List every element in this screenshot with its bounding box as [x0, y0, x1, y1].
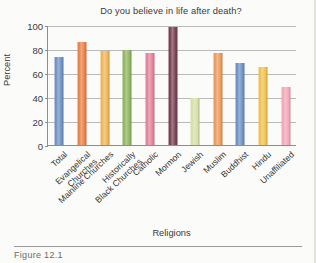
figure-caption: Figure 12.1: [14, 250, 214, 263]
y-tick-mark: [45, 26, 48, 27]
x-axis-title: Religions: [47, 228, 296, 238]
plot-area: 020406080100: [47, 26, 296, 146]
figure-container: Do you believe in life after death? Perc…: [0, 0, 316, 263]
bar: [191, 98, 200, 145]
bar: [168, 27, 177, 145]
y-tick-mark: [45, 50, 48, 51]
bar: [77, 42, 86, 145]
y-tick-mark: [45, 74, 48, 75]
y-tick-label: 0: [38, 141, 43, 152]
bar: [100, 51, 109, 145]
caption-divider: [14, 246, 302, 247]
y-tick-label: 40: [32, 93, 43, 104]
page-edge: [314, 0, 316, 263]
y-axis-title: Percent: [2, 54, 12, 86]
chart-title: Do you believe in life after death?: [40, 6, 302, 16]
y-tick-mark: [45, 98, 48, 99]
bar: [145, 53, 154, 145]
y-tick-mark: [45, 146, 48, 147]
bar: [281, 87, 290, 145]
y-tick-label: 60: [32, 69, 43, 80]
bar: [259, 67, 268, 145]
bar: [236, 63, 245, 145]
y-tick-label: 20: [32, 117, 43, 128]
y-tick-label: 80: [32, 45, 43, 56]
x-tick-label: Jewish: [180, 150, 206, 175]
bar: [55, 57, 64, 145]
y-tick-mark: [45, 122, 48, 123]
bar: [213, 53, 222, 145]
bar: [123, 50, 132, 145]
y-tick-label: 100: [27, 21, 43, 32]
x-tick-label: Historically Black Churches: [87, 150, 144, 205]
